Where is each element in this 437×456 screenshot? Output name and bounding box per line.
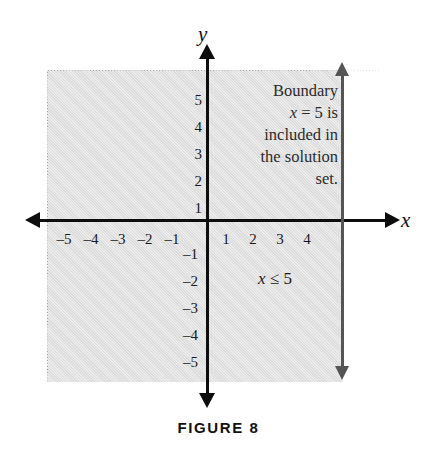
y-tick-label--2: –2 bbox=[176, 273, 198, 290]
x-tick-label-4: 4 bbox=[294, 231, 320, 248]
annotation-line-2: x = 5 is bbox=[216, 102, 338, 124]
boundary-annotation: Boundary x = 5 is included in the soluti… bbox=[216, 80, 338, 190]
y-tick-label--1: –1 bbox=[176, 246, 198, 263]
y-tick-label--4: –4 bbox=[176, 327, 198, 344]
annotation-line-4: the solution bbox=[216, 146, 338, 168]
annotation-line-3: included in bbox=[216, 124, 338, 146]
x-axis-left-arrow-icon bbox=[25, 212, 40, 228]
y-tick-label-5: 5 bbox=[180, 92, 202, 109]
x-tick-label--2: –2 bbox=[132, 231, 158, 248]
x-axis-right-arrow-icon bbox=[385, 212, 400, 228]
x-axis-line bbox=[30, 219, 388, 222]
boundary-up-arrow-icon bbox=[335, 62, 349, 76]
inequality-rest: ≤ 5 bbox=[266, 269, 292, 288]
y-axis-down-arrow-icon bbox=[199, 393, 215, 408]
x-tick-label-1: 1 bbox=[213, 231, 239, 248]
coordinate-plane: y x –5 –4 –3 –2 –1 1 2 3 4 5 4 3 2 1 –1 … bbox=[0, 0, 437, 410]
x-tick-label--4: –4 bbox=[78, 231, 104, 248]
y-tick-label-1: 1 bbox=[180, 200, 202, 217]
y-tick-label-3: 3 bbox=[180, 146, 202, 163]
x-tick-label--5: –5 bbox=[51, 231, 77, 248]
inequality-label: x ≤ 5 bbox=[258, 269, 292, 289]
figure-caption: FIGURE 8 bbox=[0, 419, 437, 436]
y-tick-label-2: 2 bbox=[180, 173, 202, 190]
boundary-down-arrow-icon bbox=[335, 366, 349, 380]
y-tick-label--5: –5 bbox=[176, 354, 198, 371]
x-axis-label: x bbox=[401, 208, 410, 233]
boundary-line-x-equals-5 bbox=[341, 72, 344, 372]
inequality-variable-x: x bbox=[258, 269, 266, 288]
x-tick-label-2: 2 bbox=[240, 231, 266, 248]
y-tick-label-4: 4 bbox=[180, 119, 202, 136]
x-tick-label-3: 3 bbox=[267, 231, 293, 248]
figure-8-graph: y x –5 –4 –3 –2 –1 1 2 3 4 5 4 3 2 1 –1 … bbox=[0, 0, 437, 456]
x-tick-label--3: –3 bbox=[105, 231, 131, 248]
y-axis-label: y bbox=[198, 22, 207, 47]
annotation-line-1: Boundary bbox=[216, 80, 338, 102]
annotation-variable-x: x bbox=[290, 103, 297, 122]
annotation-line-5: set. bbox=[216, 168, 338, 190]
annotation-line-2-rest: = 5 is bbox=[297, 103, 338, 122]
y-axis-line bbox=[206, 58, 209, 398]
y-tick-label--3: –3 bbox=[176, 300, 198, 317]
